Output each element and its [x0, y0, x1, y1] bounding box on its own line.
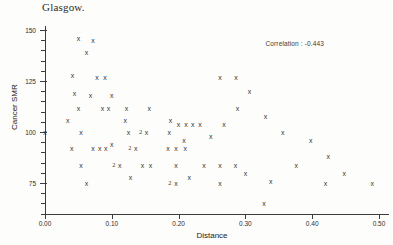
data-point-count-label: 2 [139, 129, 142, 136]
x-tick-label-0.40: 0.40 [297, 220, 327, 227]
data-point: x [71, 71, 75, 78]
data-point: x [184, 120, 188, 127]
data-point: x [118, 161, 122, 168]
data-point: x [218, 180, 222, 187]
data-point: x [264, 112, 268, 119]
x-tick-label-0.20: 0.20 [164, 220, 194, 227]
data-point: x [85, 49, 89, 56]
x-tick-0.50 [379, 214, 380, 219]
data-point: x [218, 73, 222, 80]
y-tick-130 [41, 71, 46, 72]
data-point: x [198, 120, 202, 127]
data-point: x [79, 161, 83, 168]
data-point: x [107, 104, 111, 111]
y-tick-110 [41, 112, 46, 113]
y-tick-label-150: 150 [14, 27, 36, 34]
data-point: x [77, 104, 81, 111]
data-point: x [141, 161, 145, 168]
data-point: x [110, 92, 114, 99]
data-point: x [262, 200, 266, 207]
data-point: x [98, 145, 102, 152]
data-point: x [236, 104, 240, 111]
x-tick-0.30 [245, 214, 246, 219]
data-point: x [174, 145, 178, 152]
data-point: x [66, 116, 70, 123]
data-point: x [169, 116, 173, 123]
data-point: x [281, 129, 285, 136]
y-tick-125 [40, 81, 47, 82]
chart-title: Glasgow. [42, 1, 85, 13]
y-axis-line [45, 26, 46, 214]
x-tick-0.10 [112, 214, 113, 219]
data-point: x [127, 129, 131, 136]
data-point: x [174, 180, 178, 187]
data-point: x [309, 137, 313, 144]
y-tick-115 [41, 101, 46, 102]
data-point-count-label: 2 [128, 145, 131, 152]
data-point: x [191, 120, 195, 127]
y-tick-90 [41, 152, 46, 153]
y-tick-140 [41, 50, 46, 51]
data-point: x [134, 145, 138, 152]
data-point-count-label: 2 [112, 161, 115, 168]
data-point: x [73, 90, 77, 97]
y-tick-95 [41, 142, 46, 143]
y-tick-105 [41, 122, 46, 123]
data-point: x [202, 161, 206, 168]
x-axis-title: Distance [196, 231, 227, 240]
data-point: x [166, 145, 170, 152]
data-point: x [77, 35, 81, 42]
data-point: x [91, 145, 95, 152]
x-tick-0.00 [45, 214, 46, 219]
data-point: x [70, 145, 74, 152]
data-point: x [91, 37, 95, 44]
data-point: x [101, 104, 105, 111]
data-point: x [248, 88, 252, 95]
data-point: x [343, 169, 347, 176]
data-point: x [89, 92, 93, 99]
y-tick-145 [41, 40, 46, 41]
data-point: x [110, 141, 114, 148]
x-tick-0.20 [179, 214, 180, 219]
data-point: x [174, 161, 178, 168]
data-point: x [43, 129, 47, 136]
data-point: x [147, 104, 151, 111]
data-point: x [209, 133, 213, 140]
data-point: x [234, 73, 238, 80]
scatter-plot-figure: Glasgow. Correlation : -0.443 1501251007… [0, 0, 393, 245]
x-tick-label-0.50: 0.50 [364, 220, 393, 227]
data-point: x [103, 73, 107, 80]
y-tick-70 [41, 193, 46, 194]
y-tick-label-75: 75 [14, 180, 36, 187]
x-tick-label-0.10: 0.10 [97, 220, 127, 227]
data-point: x [326, 153, 330, 160]
data-point: x [123, 116, 127, 123]
data-point: x [95, 73, 99, 80]
data-point: x [125, 104, 129, 111]
data-point: x [149, 161, 153, 168]
correlation-annotation: Correlation : -0.443 [265, 40, 324, 47]
data-point: x [177, 120, 181, 127]
data-point: x [167, 129, 171, 136]
data-point: x [218, 161, 222, 168]
data-point: x [145, 129, 149, 136]
y-tick-75 [40, 183, 47, 184]
y-tick-85 [41, 163, 46, 164]
data-point: x [371, 180, 375, 187]
y-tick-135 [41, 61, 46, 62]
data-point: x [294, 161, 298, 168]
x-axis-line [45, 214, 389, 215]
y-tick-120 [41, 91, 46, 92]
data-point: x [269, 177, 273, 184]
y-axis-title: Cancer SMR [10, 84, 19, 130]
data-point: x [85, 180, 89, 187]
x-tick-0.40 [312, 214, 313, 219]
y-tick-80 [41, 173, 46, 174]
data-point: x [79, 129, 83, 136]
y-tick-65 [41, 203, 46, 204]
data-point: x [244, 169, 248, 176]
y-tick-150 [40, 30, 47, 31]
data-point: x [184, 145, 188, 152]
data-point-count-label: 2 [168, 180, 171, 187]
data-point: x [129, 173, 133, 180]
